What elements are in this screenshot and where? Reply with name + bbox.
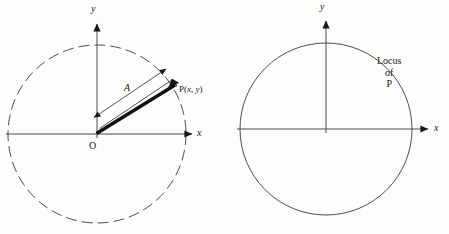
x-axis-label: x [197, 128, 201, 138]
vector-magnitude-label: A [124, 83, 130, 93]
point-p-suffix: ) [200, 84, 203, 94]
y-axis-label: y [320, 2, 324, 12]
origin-label: O [89, 141, 96, 151]
vector-diagram-panel: y x O A P(x, y) [0, 0, 225, 234]
point-p-prefix: P( [179, 84, 187, 94]
locus-annotation-line1: Locus [377, 55, 401, 67]
locus-annotation-line3: P [377, 78, 401, 90]
vector-arrow-bold [97, 85, 176, 134]
locus-annotation: Locus of P [377, 55, 401, 90]
point-p-label: P(x, y) [179, 85, 203, 94]
vector-shaft-outline [100, 80, 173, 129]
magnitude-dimension-line [94, 69, 166, 118]
x-axis-label: x [434, 123, 438, 133]
y-axis-label: y [91, 4, 95, 14]
locus-diagram-panel: y x Locus of P [225, 0, 449, 234]
figure-canvas: y x O A P(x, y) y x Locus of [0, 0, 449, 234]
locus-annotation-line2: of [377, 67, 401, 79]
